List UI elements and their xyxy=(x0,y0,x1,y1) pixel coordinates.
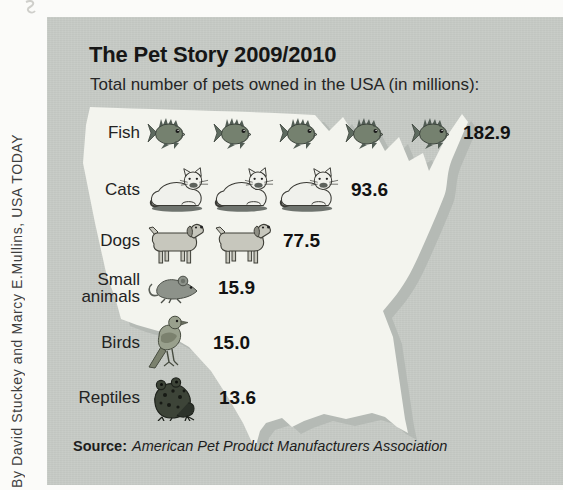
bird-icon-group xyxy=(147,313,189,373)
frog-icon-group xyxy=(147,375,197,421)
dog-icon xyxy=(147,218,204,265)
category-label: Dogs xyxy=(47,232,140,250)
chart-title: The Pet Story 2009/2010 xyxy=(89,42,336,68)
category-label: Cats xyxy=(47,181,140,199)
chart-row-cats: Cats 93.6 xyxy=(47,162,388,218)
fish-icon xyxy=(279,116,319,150)
source-text: American Pet Product Manufacturers Assoc… xyxy=(132,438,447,454)
frog-icon xyxy=(147,375,197,421)
source-line: Source:American Pet Product Manufacturer… xyxy=(73,438,447,454)
mouse-icon xyxy=(147,273,201,304)
source-label: Source: xyxy=(73,438,127,454)
chart-row-fish: Fish 182.9 xyxy=(47,105,511,161)
cat-icon xyxy=(147,167,209,213)
category-label: Reptiles xyxy=(47,389,140,407)
credit-byline: By David Stuckey and Marcy E.Mullins, US… xyxy=(9,104,25,488)
fish-icon xyxy=(345,116,385,150)
fish-icon xyxy=(147,116,187,150)
cat-icon xyxy=(212,167,274,213)
chart-row-reptiles: Reptiles 13.6 xyxy=(47,370,256,426)
cat-icon-group xyxy=(147,167,339,213)
value-label: 77.5 xyxy=(283,230,320,252)
chart-subtitle: Total number of pets owned in the USA (i… xyxy=(90,75,479,95)
chart-row-birds: Birds 15.0 xyxy=(47,311,250,375)
fish-icon xyxy=(411,116,451,150)
infographic-panel: The Pet Story 2009/2010 Total number of … xyxy=(47,17,563,485)
value-label: 15.9 xyxy=(218,277,255,299)
infographic-page: By David Stuckey and Marcy E.Mullins, US… xyxy=(0,0,563,490)
bird-icon xyxy=(147,313,189,373)
category-label: Small animals xyxy=(47,271,140,306)
fish-icon-group xyxy=(147,116,451,150)
value-label: 15.0 xyxy=(213,332,250,354)
mouse-icon-group xyxy=(147,273,201,304)
value-label: 93.6 xyxy=(351,179,388,201)
value-label: 182.9 xyxy=(463,122,511,144)
category-label: Birds xyxy=(47,334,140,352)
dog-icon-group xyxy=(147,218,271,265)
fish-icon xyxy=(213,116,253,150)
value-label: 13.6 xyxy=(219,387,256,409)
category-label: Fish xyxy=(47,124,140,142)
cat-icon xyxy=(277,167,339,213)
pen-mark-decoration xyxy=(18,0,44,18)
dog-icon xyxy=(214,218,271,265)
chart-row-small-animals: Small animals 15.9 xyxy=(47,260,255,316)
